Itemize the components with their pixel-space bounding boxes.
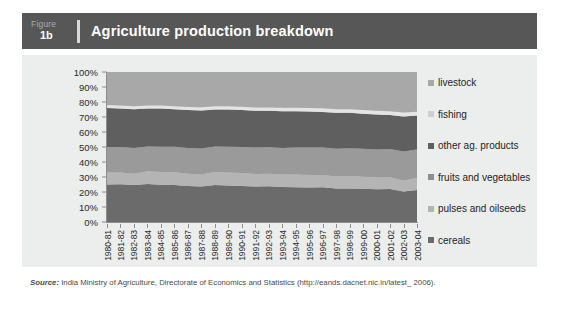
legend-item-label: livestock xyxy=(438,77,476,88)
x-axis-tick-label: 1980-81 xyxy=(103,230,113,261)
plot-wrapper xyxy=(107,72,417,222)
y-axis-tick-label: 70% xyxy=(79,112,98,123)
x-axis-tick-label: 1988-89 xyxy=(210,230,220,261)
y-axis-tick-label: 80% xyxy=(79,97,98,108)
x-axis-tick-mark xyxy=(147,224,148,228)
y-axis-tick-label: 50% xyxy=(79,142,98,153)
legend-item[interactable]: fruits and vegetables xyxy=(428,172,538,183)
x-axis-tick-label: 1985-86 xyxy=(170,230,180,261)
x-axis-tick-mark xyxy=(242,224,243,228)
y-axis-tick-mark xyxy=(102,207,107,208)
y-axis-tick-label: 0% xyxy=(84,217,98,228)
y-axis-tick-mark xyxy=(102,222,107,223)
y-axis-tick-label: 40% xyxy=(79,157,98,168)
x-axis-tick-label: 1990-91 xyxy=(237,230,247,261)
x-axis-tick-mark xyxy=(296,224,297,228)
y-axis-tick-label: 20% xyxy=(79,187,98,198)
area-band-cereals xyxy=(107,184,417,222)
y-axis-tick-mark xyxy=(102,117,107,118)
x-axis-tick-mark xyxy=(323,224,324,228)
stacked-area-plot xyxy=(107,72,417,222)
chart-legend: livestockfishingother ag. productsfruits… xyxy=(428,77,538,266)
y-axis-tick-label: 10% xyxy=(79,202,98,213)
legend-swatch-icon xyxy=(428,206,434,212)
header-divider xyxy=(77,20,80,43)
x-axis-tick-mark xyxy=(309,224,310,228)
figure-container: Figure 1b Agriculture production breakdo… xyxy=(0,0,564,313)
y-axis-tick-label: 100% xyxy=(74,67,98,78)
legend-item[interactable]: cereals xyxy=(428,235,538,246)
x-axis-tick-label: 1997-98 xyxy=(332,230,342,261)
y-axis-tick-mark xyxy=(102,132,107,133)
figure-header-bar: Figure 1b Agriculture production breakdo… xyxy=(22,13,537,49)
x-axis-tick-mark xyxy=(350,224,351,228)
legend-item[interactable]: fishing xyxy=(428,109,538,120)
y-axis-tick-label: 90% xyxy=(79,82,98,93)
stacked-area-svg xyxy=(107,72,417,222)
x-axis-tick-label: 1984-85 xyxy=(156,230,166,261)
x-axis-tick-label: 1989-90 xyxy=(224,230,234,261)
y-axis-tick-mark xyxy=(102,177,107,178)
y-axis-tick-mark xyxy=(102,102,107,103)
x-axis-tick-mark xyxy=(390,224,391,228)
y-axis-tick-mark xyxy=(102,72,107,73)
legend-swatch-icon xyxy=(428,80,434,86)
area-band-other-ag-products xyxy=(107,108,417,152)
x-axis: 1980-811981-821982-831983-841984-851985-… xyxy=(107,224,417,268)
x-axis-tick-mark xyxy=(201,224,202,228)
x-axis-tick-label: 1992-93 xyxy=(264,230,274,261)
x-axis-tick-mark xyxy=(107,224,108,228)
x-axis-tick-mark xyxy=(215,224,216,228)
x-axis-tick-label: 2002-03 xyxy=(399,230,409,261)
x-axis-tick-label: 1999-00 xyxy=(359,230,369,261)
y-axis-tick-label: 60% xyxy=(79,127,98,138)
x-axis-tick-label: 1987-88 xyxy=(197,230,207,261)
x-axis-tick-mark xyxy=(269,224,270,228)
source-text: India Ministry of Agriculture, Directora… xyxy=(59,278,436,287)
x-axis-tick-mark xyxy=(188,224,189,228)
x-axis-tick-label: 1983-84 xyxy=(143,230,153,261)
x-axis-tick-mark xyxy=(228,224,229,228)
legend-item[interactable]: other ag. products xyxy=(428,140,538,151)
y-axis: 0%10%20%30%40%50%60%70%80%90%100% xyxy=(52,72,104,222)
x-axis-tick-mark xyxy=(134,224,135,228)
legend-swatch-icon xyxy=(428,143,434,149)
legend-swatch-icon xyxy=(428,111,434,117)
x-axis-tick-mark xyxy=(404,224,405,228)
legend-item[interactable]: pulses and oilseeds xyxy=(428,203,538,214)
x-axis-tick-mark xyxy=(363,224,364,228)
x-axis-tick-label: 1981-82 xyxy=(116,230,126,261)
figure-label: Figure 1b xyxy=(31,20,77,41)
source-label: Source: xyxy=(30,278,59,287)
x-axis-tick-label: 1996-97 xyxy=(318,230,328,261)
x-axis-tick-label: 1986-87 xyxy=(183,230,193,261)
y-axis-tick-mark xyxy=(102,147,107,148)
legend-item-label: pulses and oilseeds xyxy=(438,203,526,214)
x-axis-tick-mark xyxy=(377,224,378,228)
x-axis-tick-mark xyxy=(255,224,256,228)
y-axis-tick-mark xyxy=(102,87,107,88)
x-axis-tick-mark xyxy=(161,224,162,228)
page-title: Agriculture production breakdown xyxy=(91,23,333,39)
x-axis-tick-label: 1994-95 xyxy=(291,230,301,261)
x-axis-tick-label: 1995-96 xyxy=(305,230,315,261)
figure-number: 1b xyxy=(40,30,77,42)
x-axis-tick-mark xyxy=(174,224,175,228)
y-axis-tick-mark xyxy=(102,162,107,163)
legend-item[interactable]: livestock xyxy=(428,77,538,88)
source-note: Source: India Ministry of Agriculture, D… xyxy=(30,278,436,287)
x-axis-tick-label: 1982-83 xyxy=(129,230,139,261)
x-axis-tick-mark xyxy=(120,224,121,228)
x-axis-tick-label: 2001-02 xyxy=(386,230,396,261)
x-axis-tick-label: 2000-01 xyxy=(372,230,382,261)
legend-item-label: other ag. products xyxy=(438,140,519,151)
x-axis-tick-mark xyxy=(417,224,418,228)
y-axis-tick-label: 30% xyxy=(79,172,98,183)
x-axis-tick-label: 1998-99 xyxy=(345,230,355,261)
y-axis-tick-mark xyxy=(102,192,107,193)
chart-panel: 0%10%20%30%40%50%60%70%80%90%100% 1980-8… xyxy=(22,55,537,267)
legend-swatch-icon xyxy=(428,174,434,180)
legend-swatch-icon xyxy=(428,237,434,243)
legend-item-label: fishing xyxy=(438,109,467,120)
figure-word: Figure xyxy=(31,20,77,29)
